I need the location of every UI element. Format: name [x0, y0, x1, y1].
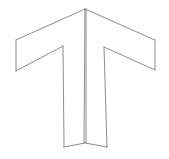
drawing-canvas: [0, 0, 169, 159]
t-shape-figure: [0, 0, 169, 159]
